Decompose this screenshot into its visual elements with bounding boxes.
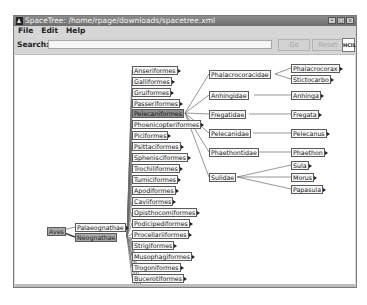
tree-node-order[interactable]: Opisthocomiformes [132, 208, 197, 217]
tree-node-order[interactable]: Passeriformes [132, 99, 180, 108]
tree-node-order[interactable]: Galliformes [132, 77, 172, 86]
minimize-button[interactable]: • [328, 17, 336, 24]
expand-arrow-icon [171, 91, 174, 95]
expand-arrow-icon [126, 226, 129, 230]
tree-node-family[interactable]: Pelecanidae [209, 129, 251, 138]
tree-node-genus[interactable]: Phaethon [291, 148, 325, 157]
tree-node-genus[interactable]: Anhinga [291, 91, 321, 100]
reset-button[interactable]: Reset [312, 39, 344, 51]
expand-arrow-icon [180, 102, 183, 106]
tree-node-family[interactable]: Anhingidae [209, 91, 249, 100]
tree-node-root[interactable]: Aves [47, 227, 66, 236]
tree-node-order[interactable]: Caviiformes [132, 197, 173, 206]
expand-arrow-icon [180, 167, 183, 171]
tree-node-order[interactable]: Trochiliformes [132, 164, 180, 173]
tree-node-order[interactable]: Phoenicopteriformes [132, 120, 201, 129]
tree-node-order-selected[interactable]: Pelecaniformes [132, 109, 184, 118]
search-toolbar: Search: Go Reset HCIL [14, 37, 356, 53]
tree-node-genus[interactable]: Fregata [291, 110, 319, 119]
expand-arrow-icon [174, 244, 177, 248]
expand-arrow-icon [184, 277, 187, 281]
search-label: Search: [17, 40, 49, 49]
tree-node-family[interactable]: Phaethontidae [209, 148, 259, 157]
menu-help[interactable]: Help [66, 26, 85, 36]
expand-arrow-icon [323, 188, 326, 192]
expand-arrow-icon [178, 69, 181, 73]
expand-arrow-icon [201, 123, 204, 127]
search-input[interactable] [48, 40, 272, 49]
tree-node-order[interactable]: Procellariiformes [132, 230, 189, 239]
expand-arrow-icon [188, 156, 191, 160]
expand-arrow-icon [197, 211, 200, 215]
tree-node-order[interactable]: Gruiformes [132, 88, 171, 97]
expand-arrow-icon [168, 134, 171, 138]
expand-arrow-icon [190, 222, 193, 226]
window-title: SpaceTree: /home/rpage/downloads/spacetr… [25, 16, 215, 26]
expand-arrow-icon [189, 233, 192, 237]
expand-arrow-icon [172, 80, 175, 84]
expand-arrow-icon [325, 151, 328, 155]
tree-node-order[interactable]: Strigiformes [132, 241, 174, 250]
expand-arrow-icon [309, 164, 312, 168]
tree-canvas[interactable]: Aves Palaeognathae Neognathae Anseriform… [15, 54, 355, 287]
expand-arrow-icon [340, 67, 343, 71]
expand-arrow-icon [327, 132, 330, 136]
tree-node-genus[interactable]: Papasula [291, 185, 323, 194]
menu-edit[interactable]: Edit [41, 26, 58, 36]
expand-arrow-icon [314, 176, 317, 180]
expand-arrow-icon [192, 255, 195, 259]
tree-node-order[interactable]: Bucerotiformes [132, 274, 184, 283]
app-icon [16, 17, 23, 25]
expand-arrow-icon [319, 113, 322, 117]
tree-node-order[interactable]: Turniciformes [132, 175, 178, 184]
expand-arrow-icon [321, 94, 324, 98]
tree-node-genus[interactable]: Pelecanus [291, 129, 327, 138]
menu-file[interactable]: File [18, 26, 33, 36]
tree-node-genus[interactable]: Phalacrocorax [291, 64, 340, 73]
tree-node-genus[interactable]: Sula [291, 161, 309, 170]
tree-node-genus[interactable]: Morus [291, 173, 314, 182]
title-bar[interactable]: SpaceTree: /home/rpage/downloads/spacetr… [14, 16, 356, 26]
expand-arrow-icon [181, 145, 184, 149]
tree-node-family[interactable]: Sulidae [209, 173, 236, 182]
expand-arrow-icon [176, 189, 179, 193]
close-button[interactable]: × [346, 17, 354, 24]
maximize-button[interactable]: □ [337, 17, 345, 24]
expand-arrow-icon [178, 178, 181, 182]
tree-node-order[interactable]: Piciformes [132, 131, 168, 140]
expand-arrow-icon [181, 266, 184, 270]
tree-node-order[interactable]: Trogoniformes [132, 263, 181, 272]
tree-node-order[interactable]: Podicipediformes [132, 219, 190, 228]
tree-node-order[interactable]: Apodiformes [132, 186, 176, 195]
go-button[interactable]: Go [278, 39, 310, 51]
tree-node-family[interactable]: Phalacrocoracidae [209, 70, 271, 79]
tree-node-order[interactable]: Psittaciformes [132, 142, 181, 151]
expand-arrow-icon [173, 200, 176, 204]
tree-node-family[interactable]: Fregatidae [209, 110, 246, 119]
tree-node-genus[interactable]: Stictocarbo [291, 75, 331, 84]
tree-node-order[interactable]: Anseriformes [132, 66, 178, 75]
expand-arrow-icon [331, 78, 334, 82]
hcil-logo: HCIL [342, 38, 355, 52]
app-window: SpaceTree: /home/rpage/downloads/spacetr… [13, 15, 357, 288]
tree-node-palaeognathae[interactable]: Palaeognathae [75, 223, 126, 232]
tree-node-order[interactable]: Musophagiformes [132, 252, 192, 261]
tree-node-neognathae[interactable]: Neognathae [75, 233, 117, 242]
tree-node-order[interactable]: Sphenisciformes [132, 153, 188, 162]
menu-bar: File Edit Help [14, 26, 356, 36]
horizontal-scrollbar[interactable] [15, 284, 355, 287]
